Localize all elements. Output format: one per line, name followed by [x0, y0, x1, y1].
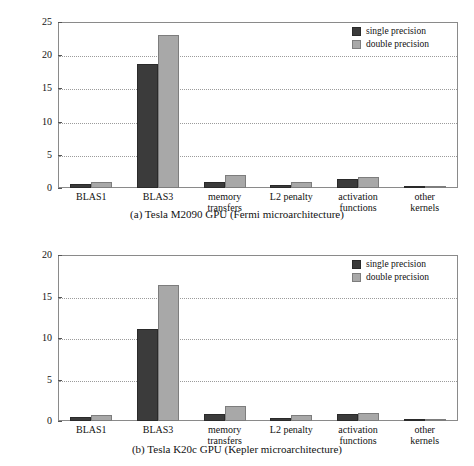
y-tick-label: 10 [22, 117, 52, 127]
y-tick-label: 25 [22, 17, 52, 27]
legend-a: single precision double precision [352, 26, 429, 51]
bar-double-precision [158, 285, 179, 421]
y-tick-label: 15 [22, 292, 52, 302]
y-tick-mark [58, 88, 62, 89]
x-tick-label-line: other [370, 192, 474, 203]
y-tick-mark [58, 255, 62, 256]
y-tick-label: 5 [22, 375, 52, 385]
legend-item-single-a: single precision [352, 26, 429, 38]
y-tick-mark [58, 22, 62, 23]
y-tick-mark [58, 188, 62, 189]
y-tick-mark [58, 55, 62, 56]
bar-group [137, 255, 179, 421]
y-tick-label: 5 [22, 150, 52, 160]
plot-area-a: Execution time [s] 0510152025 BLAS1BLAS3… [0, 0, 474, 205]
y-tick-mark [58, 297, 62, 298]
y-tick-mark [58, 155, 62, 156]
legend-item-double-a: double precision [352, 39, 429, 51]
legend-label-double-b: double precision [366, 272, 429, 284]
bar-single-precision [137, 329, 158, 421]
legend-item-single-b: single precision [352, 259, 429, 271]
bar-double-precision [158, 35, 179, 188]
bar-single-precision [204, 182, 225, 188]
y-tick-mark [58, 122, 62, 123]
y-tick-mark [58, 338, 62, 339]
legend-label-single-a: single precision [366, 26, 426, 38]
y-tick-label: 20 [22, 250, 52, 260]
figure-a-tesla-m2090: Execution time [s] 0510152025 BLAS1BLAS3… [0, 0, 474, 233]
bar-double-precision [425, 419, 446, 421]
bar-double-precision [225, 406, 246, 421]
bar-double-precision [91, 415, 112, 421]
x-tick-label-line: other [370, 425, 474, 436]
bar-group [270, 22, 312, 188]
y-tick-label: 20 [22, 50, 52, 60]
bar-single-precision [204, 414, 225, 421]
figure-b-tesla-k20c: Execution time [s] 05101520 BLAS1BLAS3me… [0, 233, 474, 466]
legend-swatch-single-icon [352, 27, 361, 36]
y-tick-mark [58, 380, 62, 381]
figure-caption-b: (b) Tesla K20c GPU (Kepler microarchitec… [0, 443, 474, 455]
bar-group [204, 255, 246, 421]
bar-double-precision [425, 186, 446, 188]
bar-single-precision [270, 185, 291, 188]
bar-double-precision [91, 182, 112, 188]
bar-single-precision [337, 179, 358, 188]
bar-double-precision [358, 413, 379, 421]
legend-swatch-double-icon [352, 40, 361, 49]
bar-double-precision [291, 415, 312, 421]
bar-group [204, 22, 246, 188]
legend-label-single-b: single precision [366, 259, 426, 271]
legend-swatch-single-icon [352, 260, 361, 269]
bar-single-precision [70, 417, 91, 421]
legend-swatch-double-icon [352, 273, 361, 282]
bar-single-precision [404, 419, 425, 421]
bar-single-precision [337, 414, 358, 421]
bar-double-precision [291, 182, 312, 188]
figure-caption-a: (a) Tesla M2090 GPU (Fermi microarchitec… [0, 208, 474, 220]
bar-double-precision [358, 177, 379, 188]
y-tick-label: 15 [22, 83, 52, 93]
bar-group [270, 255, 312, 421]
y-tick-mark [58, 421, 62, 422]
bar-single-precision [270, 418, 291, 421]
plot-area-b: Execution time [s] 05101520 BLAS1BLAS3me… [0, 233, 474, 438]
legend-b: single precision double precision [352, 259, 429, 284]
y-tick-label: 10 [22, 333, 52, 343]
bar-group [137, 22, 179, 188]
legend-item-double-b: double precision [352, 272, 429, 284]
bar-double-precision [225, 175, 246, 188]
legend-label-double-a: double precision [366, 39, 429, 51]
bar-single-precision [404, 186, 425, 188]
bar-group [70, 22, 112, 188]
bar-single-precision [137, 64, 158, 188]
bar-single-precision [70, 184, 91, 188]
bar-group [70, 255, 112, 421]
